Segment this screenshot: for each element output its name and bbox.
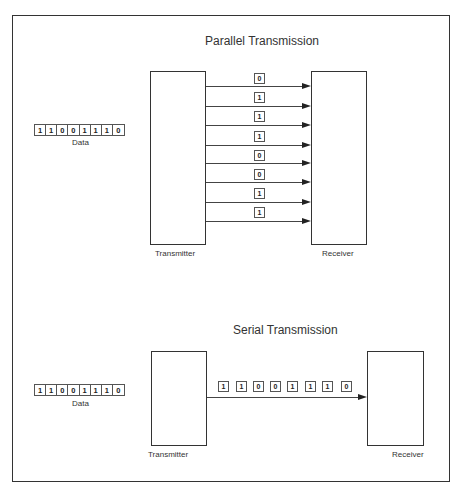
wire-line	[206, 202, 306, 203]
wire-bit: 1	[254, 207, 265, 218]
serial-transmitter-box	[151, 351, 207, 446]
wire-line	[206, 125, 306, 126]
serial-transmitter-label: Transmitter	[148, 450, 188, 459]
arrowhead-icon	[302, 199, 311, 205]
wire-line	[206, 221, 306, 222]
serial-receiver-box	[367, 351, 424, 446]
serial-receiver-label: Receiver	[392, 450, 424, 459]
wire-bit: 1	[254, 188, 265, 199]
data-bit: 0	[113, 125, 124, 135]
serial-title: Serial Transmission	[233, 323, 338, 337]
wire-line	[206, 145, 306, 146]
arrowhead-icon	[358, 394, 367, 400]
data-bit: 0	[57, 125, 68, 135]
stream-bit: 1	[236, 381, 247, 392]
data-bit: 0	[68, 385, 79, 395]
wire-bit: 0	[254, 73, 265, 84]
wire-bit: 0	[254, 150, 265, 161]
parallel-transmitter-box	[150, 71, 206, 245]
arrowhead-icon	[302, 83, 311, 89]
data-bit: 0	[113, 385, 124, 395]
wire-line	[206, 163, 306, 164]
data-bit: 1	[46, 385, 57, 395]
arrowhead-icon	[302, 160, 311, 166]
arrowhead-icon	[302, 218, 311, 224]
stream-bit: 1	[218, 381, 229, 392]
data-bit: 1	[91, 385, 102, 395]
parallel-receiver-box	[311, 71, 367, 245]
serial-data-label: Data	[72, 399, 89, 408]
wire-line	[206, 86, 306, 87]
wire-line	[206, 182, 306, 183]
data-bit: 1	[35, 125, 46, 135]
parallel-data-label: Data	[72, 138, 89, 147]
serial-data-array: 1 1 0 0 1 1 1 0	[34, 384, 125, 396]
stream-bit: 0	[270, 381, 281, 392]
data-bit: 0	[68, 125, 79, 135]
data-bit: 1	[80, 125, 91, 135]
wire-bit: 1	[254, 92, 265, 103]
stream-bit: 0	[253, 381, 264, 392]
parallel-receiver-label: Receiver	[322, 249, 354, 258]
parallel-data-array: 1 1 0 0 1 1 1 0	[34, 124, 125, 136]
stream-bit: 1	[287, 381, 298, 392]
parallel-transmitter-label: Transmitter	[155, 249, 195, 258]
arrowhead-icon	[302, 142, 311, 148]
data-bit: 1	[102, 125, 113, 135]
wire-line	[206, 106, 306, 107]
data-bit: 1	[80, 385, 91, 395]
data-bit: 1	[102, 385, 113, 395]
data-bit: 1	[35, 385, 46, 395]
data-bit: 1	[46, 125, 57, 135]
stream-bit: 0	[341, 381, 352, 392]
arrowhead-icon	[302, 179, 311, 185]
wire-bit: 0	[254, 169, 265, 180]
parallel-title: Parallel Transmission	[205, 34, 319, 48]
data-bit: 1	[91, 125, 102, 135]
serial-line	[207, 397, 362, 398]
stream-bit: 1	[322, 381, 333, 392]
wire-bit: 1	[254, 111, 265, 122]
data-bit: 0	[57, 385, 68, 395]
stream-bit: 1	[305, 381, 316, 392]
arrowhead-icon	[302, 103, 311, 109]
wire-bit: 1	[254, 131, 265, 142]
arrowhead-icon	[302, 122, 311, 128]
